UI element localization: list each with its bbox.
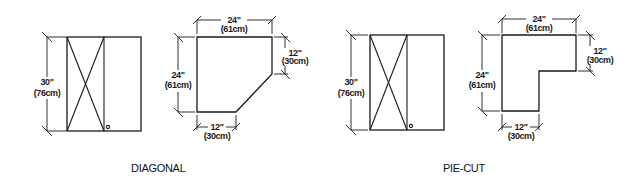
piecut-cabinet-elevation: 30" (76cm) bbox=[334, 30, 444, 135]
width-cm-label: (61cm) bbox=[526, 23, 553, 33]
diagonal-caption: DIAGONAL bbox=[131, 162, 186, 174]
corner-cabinet-diagrams: 30" (76cm) 24" (61cm) 24" (61cm) bbox=[0, 0, 636, 181]
height-dimension: 30" (76cm) bbox=[30, 32, 66, 136]
top-bottom-dimension: 12" (30cm) bbox=[498, 114, 543, 141]
depth-in-label: 24" bbox=[171, 70, 184, 80]
piecut-caption: PIE-CUT bbox=[443, 162, 485, 174]
depth-in-label: 24" bbox=[475, 70, 488, 80]
top-bottom-dimension: 12" (30cm) bbox=[193, 115, 240, 141]
piecut-top-plan: 24" (61cm) 24" (61cm) 12" (30cm) bbox=[467, 14, 618, 141]
height-in-label: 30" bbox=[40, 77, 53, 87]
depth-cm-label: (61cm) bbox=[165, 80, 192, 90]
diagonal-top-outline bbox=[197, 37, 272, 112]
depth-cm-label: (61cm) bbox=[469, 80, 496, 90]
height-cm-label: (76cm) bbox=[338, 88, 365, 98]
top-width-dimension: 24" (61cm) bbox=[193, 15, 276, 34]
top-width-dimension: 24" (61cm) bbox=[498, 14, 580, 33]
door-knob-icon bbox=[106, 125, 109, 128]
top-side-dimension: 12" (30cm) bbox=[274, 33, 314, 79]
width-cm-label: (61cm) bbox=[221, 24, 248, 34]
piecut-top-outline bbox=[502, 35, 576, 111]
bottom-cm-label: (30cm) bbox=[508, 131, 535, 141]
top-side-dimension: 12" (30cm) bbox=[578, 31, 618, 76]
side-cm-label: (30cm) bbox=[587, 55, 614, 65]
top-depth-dimension: 24" (61cm) bbox=[163, 33, 195, 117]
top-depth-dimension: 24" (61cm) bbox=[467, 31, 500, 116]
door-knob-icon bbox=[409, 124, 412, 127]
height-in-label: 30" bbox=[344, 77, 357, 87]
diagonal-cabinet-elevation: 30" (76cm) bbox=[30, 32, 141, 136]
side-cm-label: (30cm) bbox=[282, 56, 309, 66]
height-cm-label: (76cm) bbox=[34, 88, 61, 98]
height-dimension: 30" (76cm) bbox=[334, 30, 368, 135]
diagonal-top-plan: 24" (61cm) 24" (61cm) 12" (30cm) bbox=[163, 15, 314, 141]
bottom-cm-label: (30cm) bbox=[204, 131, 231, 141]
